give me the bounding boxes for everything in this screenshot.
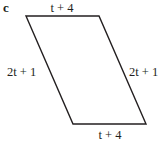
part-label: c [3,0,9,15]
side-label-right: 2t + 1 [129,65,158,79]
side-label-top: t + 4 [50,1,74,15]
side-label-bottom: t + 4 [98,128,122,141]
parallelogram-diagram: c t + 4 t + 4 2t + 1 2t + 1 [0,0,161,141]
parallelogram-shape [26,16,146,124]
side-label-left: 2t + 1 [7,65,36,79]
